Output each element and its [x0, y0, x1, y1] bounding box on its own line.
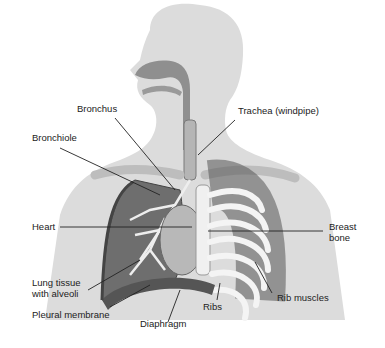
label-heart: Heart: [32, 222, 55, 233]
label-trachea: Trachea (windpipe): [238, 106, 319, 117]
label-breast-bone-line2: bone: [329, 233, 356, 244]
breast-bone: [196, 185, 210, 275]
label-lung-tissue: Lung tissue with alveoli: [32, 278, 81, 299]
trachea: [184, 120, 196, 180]
label-bronchus: Bronchus: [77, 104, 117, 115]
label-diaphragm: Diaphragm: [140, 319, 186, 330]
label-ribs: Ribs: [203, 302, 222, 313]
label-pleural-membrane: Pleural membrane: [32, 310, 110, 321]
label-breast-bone-line1: Breast: [329, 222, 356, 233]
label-lung-tissue-line2: with alveoli: [32, 289, 81, 300]
label-rib-muscles: Rib muscles: [277, 293, 329, 304]
label-lung-tissue-line1: Lung tissue: [32, 278, 81, 289]
label-breast-bone: Breast bone: [329, 222, 356, 243]
label-bronchiole: Bronchiole: [32, 133, 77, 144]
